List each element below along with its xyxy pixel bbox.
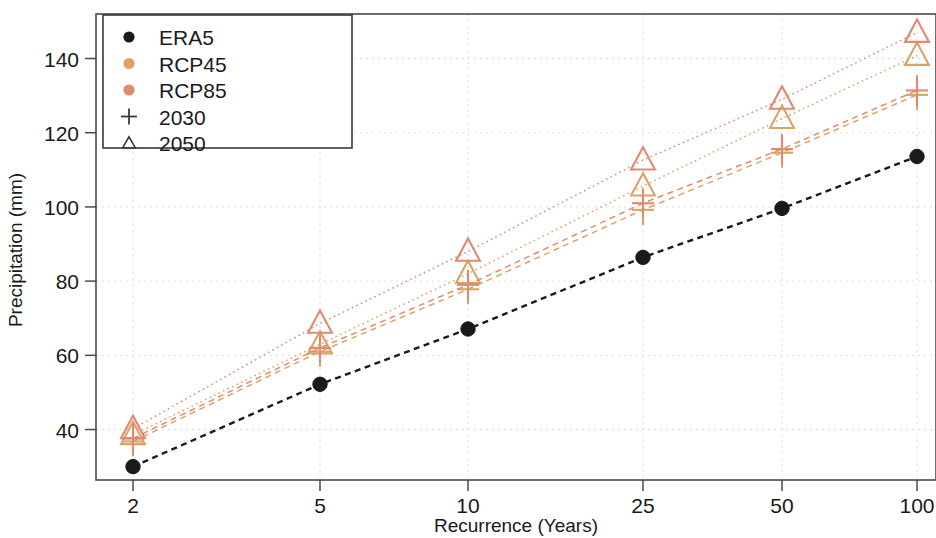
data-point — [906, 75, 928, 105]
series-era5 — [126, 149, 924, 474]
legend-marker-dot-icon — [123, 84, 134, 95]
data-point — [775, 201, 789, 215]
x-tick-label: 5 — [314, 494, 326, 517]
data-point — [309, 333, 331, 363]
x-tick-label: 10 — [456, 494, 479, 517]
legend-label[interactable]: RCP85 — [159, 79, 227, 102]
data-point — [313, 377, 327, 391]
x-axis-ticks — [133, 480, 917, 491]
legend-label[interactable]: 2050 — [159, 132, 206, 155]
legend: ERA5RCP45RCP8520302050 — [103, 15, 352, 155]
data-point — [636, 250, 650, 264]
data-point — [771, 134, 793, 164]
legend-marker-dot-icon — [123, 31, 134, 42]
legend-label[interactable]: 2030 — [159, 106, 206, 129]
y-tick-label: 100 — [44, 196, 79, 219]
y-tick-label: 120 — [44, 122, 79, 145]
y-axis-title: Precipitation (mm) — [5, 173, 26, 327]
y-tick-label: 80 — [56, 270, 79, 293]
x-axis-title: Recurrence (Years) — [434, 515, 598, 536]
data-point — [910, 149, 924, 163]
x-tick-label: 100 — [899, 494, 934, 517]
y-axis-tick-labels: 406080100120140 — [44, 48, 79, 442]
y-tick-label: 60 — [56, 344, 79, 367]
chart-container: 406080100120140 25102550100 ERA5RCP45RCP… — [0, 0, 936, 538]
x-tick-label: 25 — [631, 494, 654, 517]
precipitation-recurrence-chart: 406080100120140 25102550100 ERA5RCP45RCP… — [0, 0, 936, 538]
x-axis-tick-labels: 25102550100 — [127, 494, 934, 517]
x-tick-label: 2 — [127, 494, 139, 517]
x-tick-label: 50 — [770, 494, 793, 517]
legend-marker-dot-icon — [123, 58, 134, 69]
y-tick-label: 40 — [56, 419, 79, 442]
y-tick-label: 140 — [44, 48, 79, 71]
legend-label[interactable]: ERA5 — [159, 26, 214, 49]
data-point — [126, 459, 140, 473]
legend-label[interactable]: RCP45 — [159, 53, 227, 76]
y-axis-ticks — [85, 59, 96, 430]
data-point — [461, 322, 475, 336]
